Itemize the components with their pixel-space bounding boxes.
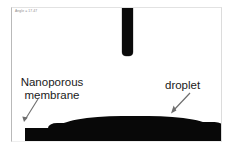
annotation-label-membrane: Nanoporous membrane bbox=[6, 76, 98, 102]
angle-readout-text: Angle = 17.47 bbox=[15, 9, 37, 14]
nanoporous-membrane-slab bbox=[25, 128, 221, 142]
goniometer-screenshot: Angle = 17.47 Nanoporous membrane drople… bbox=[0, 0, 235, 150]
syringe-needle bbox=[122, 7, 133, 56]
photo-frame: Angle = 17.47 bbox=[11, 7, 222, 142]
annotation-label-droplet: droplet bbox=[165, 79, 200, 92]
